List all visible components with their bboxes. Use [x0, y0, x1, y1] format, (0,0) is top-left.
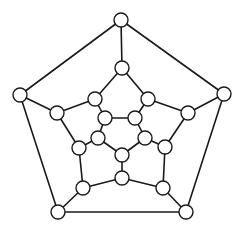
node-O0: [114, 13, 128, 27]
edge-O4-O0: [20, 20, 121, 95]
node-M8: [50, 106, 64, 120]
node-O4: [13, 88, 27, 102]
node-I4: [91, 131, 105, 145]
node-M6: [76, 181, 90, 195]
node-I0: [98, 111, 112, 125]
node-M0: [115, 61, 129, 75]
node-I3: [115, 148, 129, 162]
node-O1: [217, 87, 231, 101]
node-M5: [115, 171, 129, 185]
edge-O0-O1: [121, 20, 224, 94]
node-M4: [156, 181, 170, 195]
node-M9: [88, 92, 102, 106]
node-M3: [158, 140, 172, 154]
dodecahedron-graph: [0, 0, 245, 231]
node-I2: [138, 131, 152, 145]
node-M2: [181, 106, 195, 120]
node-O3: [51, 205, 65, 219]
node-I1: [128, 111, 142, 125]
node-O2: [179, 205, 193, 219]
node-M1: [141, 92, 155, 106]
node-M7: [72, 141, 86, 155]
